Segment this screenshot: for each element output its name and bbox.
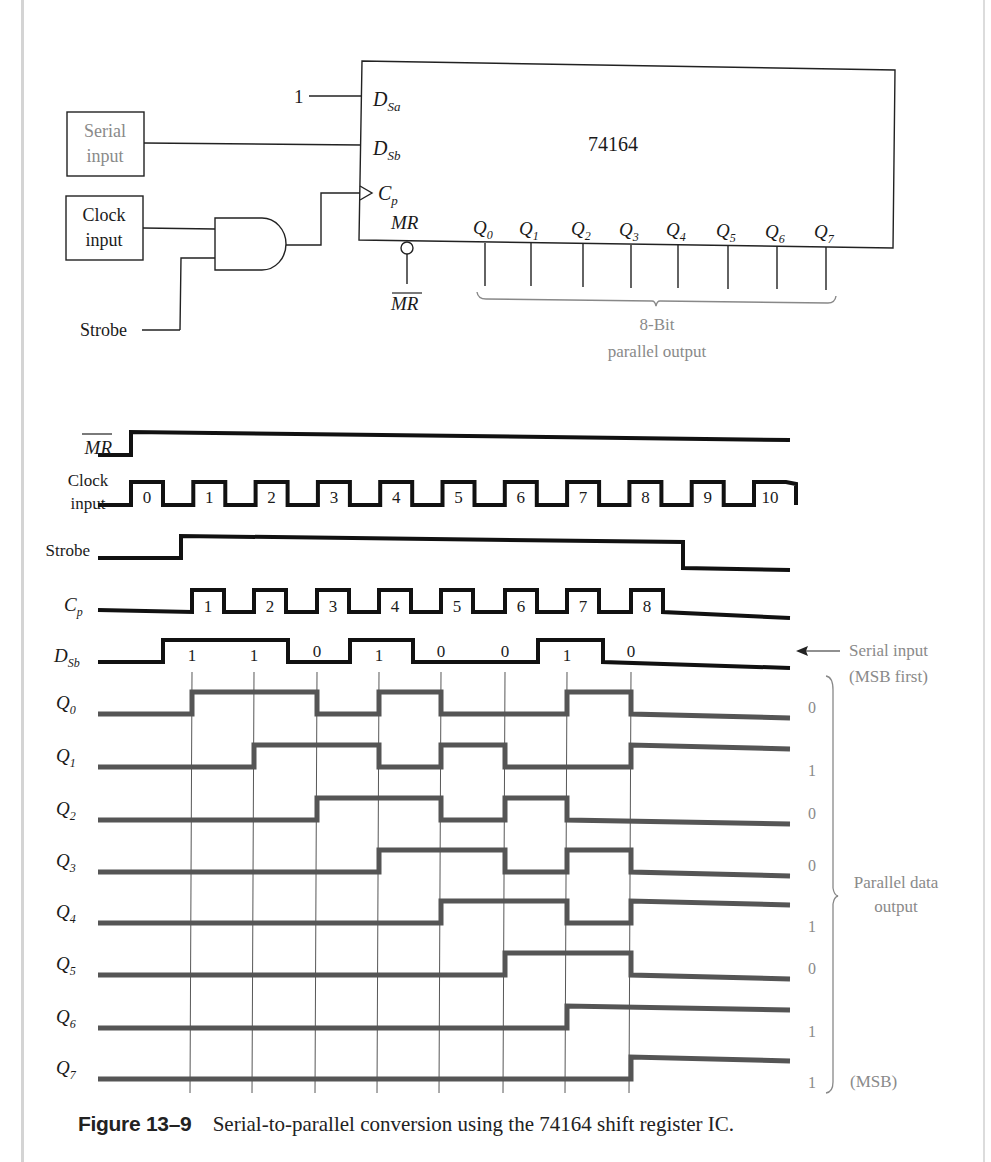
- q7-final-value: 1: [808, 1074, 816, 1091]
- q5-timing-label: Q5: [56, 953, 76, 978]
- q1-timing-label: Q1: [56, 745, 76, 770]
- cp-wave: [98, 590, 790, 618]
- mr-bar-label: MR: [390, 293, 419, 314]
- serial-note-line1: Serial input: [849, 641, 928, 660]
- q5-final-value: 0: [808, 960, 816, 977]
- clock-triangle-icon: [360, 186, 372, 200]
- mr-bubble-icon: [401, 242, 413, 254]
- q-output-leads: [485, 243, 826, 290]
- q-pin-label-3: Q3: [619, 219, 639, 244]
- q5-wave: [98, 953, 790, 979]
- const-one-label: 1: [294, 86, 304, 107]
- cp-pulse-7: 7: [579, 597, 588, 616]
- strobe-label: Strobe: [80, 320, 127, 340]
- clock-pulse-1: 1: [205, 488, 214, 507]
- parallel-note-line2: output: [874, 897, 918, 916]
- cp-pulse-5: 5: [453, 597, 462, 616]
- dsb-bit-4: 0: [437, 642, 446, 661]
- q7-timing-label: Q7: [56, 1057, 77, 1082]
- caption-text: Serial-to-parallel conversion using the …: [213, 1112, 734, 1136]
- clock-pulse-0: 0: [143, 488, 152, 507]
- q-pin-label-5: Q5: [716, 220, 736, 245]
- timing-waveforms: [98, 432, 796, 1079]
- cp-pulse-3: 3: [329, 597, 338, 616]
- pin-dsa: DSa: [372, 88, 401, 114]
- clock-pulse-2: 2: [267, 488, 276, 507]
- parallel-output-brace: [826, 676, 838, 1093]
- q1-final-value: 1: [808, 762, 816, 779]
- q-pin-label-1: Q1: [519, 218, 539, 243]
- q-pin-label-4: Q4: [666, 219, 686, 244]
- dsb-timing-label: DSb: [53, 645, 80, 670]
- q3-final-value: 0: [808, 857, 816, 874]
- clock-pulse-7: 7: [579, 488, 588, 507]
- cp-pulse-2: 2: [266, 597, 275, 616]
- q6-wave: [98, 1006, 790, 1028]
- q4-final-value: 1: [808, 918, 816, 935]
- clock-pulse-4: 4: [392, 488, 401, 507]
- cp-pulse-1: 1: [204, 597, 213, 616]
- brace-label-line2: parallel output: [608, 342, 707, 361]
- schematic: [66, 61, 895, 330]
- serial-note-line2: (MSB first): [849, 667, 928, 686]
- clock-pulse-6: 6: [517, 488, 526, 507]
- figure-13-9: 1 DSa DSb Cp MR MR 74164 Serial input Cl…: [0, 0, 991, 1100]
- strobe-timing-label: Strobe: [46, 541, 90, 560]
- clock-pulse-10: 10: [762, 488, 779, 507]
- q6-timing-label: Q6: [56, 1006, 76, 1031]
- q0-wave: [98, 692, 790, 718]
- clock-label-line1: Clock: [68, 471, 109, 490]
- mr-bar-wave: [98, 432, 790, 455]
- parallel-note-line1: Parallel data: [854, 873, 939, 892]
- q-pin-labels: Q0Q1Q2Q3Q4Q5Q6Q7: [473, 217, 835, 246]
- clock-box-line2: input: [85, 230, 122, 250]
- q6-final-value: 1: [808, 1023, 816, 1040]
- edge-gridline-8: [629, 672, 631, 1093]
- cp-pulse-6: 6: [517, 597, 526, 616]
- q4-timing-label: Q4: [56, 901, 76, 926]
- schematic-labels: 1 DSa DSb Cp MR MR 74164 Serial input Cl…: [80, 86, 835, 361]
- q2-wave: [98, 798, 790, 824]
- msb-note: (MSB): [850, 1072, 897, 1091]
- dsb-bit-5: 0: [501, 642, 510, 661]
- q-pin-label-7: Q7: [814, 221, 835, 246]
- q2-timing-label: Q2: [56, 798, 76, 823]
- mr-bar-timing-label: MR: [84, 437, 113, 458]
- brace-label-line1: 8-Bit: [640, 315, 675, 334]
- q7-wave: [98, 1057, 790, 1079]
- cp-pulse-8: 8: [643, 597, 652, 616]
- pin-dsb: DSb: [372, 137, 401, 163]
- dsb-bit-6: 1: [563, 646, 572, 665]
- chip-label: 74164: [588, 133, 638, 155]
- pin-mr: MR: [390, 212, 419, 233]
- figure-number: Figure 13–9: [78, 1112, 191, 1135]
- dsb-bit-3: 1: [375, 646, 384, 665]
- clock-pulse-9: 9: [703, 488, 712, 507]
- clock-pulse-3: 3: [330, 488, 339, 507]
- serial-box-line1: Serial: [84, 121, 126, 141]
- cp-timing-label: Cp: [64, 594, 83, 619]
- figure-caption: Figure 13–9 Serial-to-parallel conversio…: [78, 1112, 734, 1137]
- serial-box-line2: input: [86, 146, 123, 166]
- q-pin-label-2: Q2: [571, 218, 591, 243]
- dsb-bit-1: 1: [250, 646, 259, 665]
- q3-wave: [98, 850, 790, 876]
- dsb-bit-7: 0: [627, 642, 636, 661]
- clock-label-line2: input: [71, 494, 106, 513]
- cp-pulse-4: 4: [391, 597, 400, 616]
- q0-final-value: 0: [808, 699, 816, 716]
- q4-wave: [98, 901, 790, 923]
- clock-pulse-5: 5: [454, 488, 463, 507]
- clock-box-line1: Clock: [83, 205, 126, 225]
- q-pin-label-6: Q6: [765, 221, 785, 246]
- q2-final-value: 0: [808, 805, 816, 822]
- strobe-wave: [98, 536, 790, 570]
- output-brace: [477, 292, 836, 306]
- dsb-bit-2: 0: [313, 642, 322, 661]
- and-gate-icon: [215, 218, 286, 270]
- q3-timing-label: Q3: [56, 850, 76, 875]
- clock-pulse-8: 8: [641, 488, 650, 507]
- clock-input-wave: [98, 482, 796, 505]
- q-pin-label-0: Q0: [473, 217, 493, 242]
- timing-labels: MR012345678910ClockinputStrobe12345678Cp…: [46, 434, 939, 1093]
